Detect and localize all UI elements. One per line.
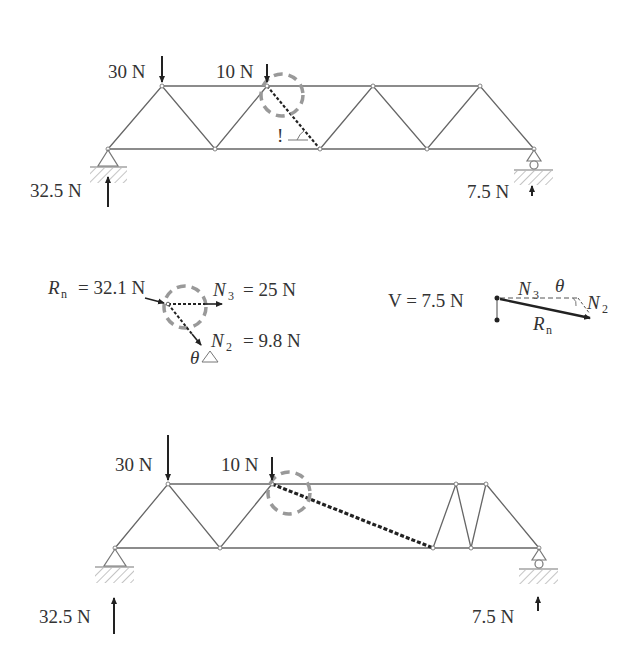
top-truss [108,86,534,149]
web-members-right [433,484,539,548]
truss-diagram-canvas: ! 30 N 10 N 32.5 N 7.5 N R n = 32.1 N N … [0,0,630,669]
load-label-30n: 30 N [108,61,146,82]
joint-highlight-circle-fbd [164,286,206,328]
n3-subscript: 3 [228,289,234,303]
bottom-truss [115,484,539,548]
n3-symbol: N [212,279,227,300]
top-truss-nodes [106,84,536,151]
reaction-label-right-bottom: 7.5 N [472,606,515,627]
web-members-right [320,86,534,149]
v-label: V = 7.5 N [388,290,464,311]
tri-n2-subscript: 2 [602,302,608,316]
rn-resultant-arrow-icon [500,299,590,318]
reaction-label-left: 32.5 N [30,180,82,201]
theta-arc-icon [573,298,576,306]
tri-n3-symbol: N [517,278,532,299]
rn-symbol: R [47,277,60,298]
pin-support-bottom-icon [95,549,134,583]
rn-subscript: n [61,287,67,301]
n3-value: = 25 N [243,279,296,300]
web-members-left [115,484,272,548]
tri-n2-symbol: N [586,292,601,313]
n2-member-dashed [168,304,192,334]
n2-subscript: 2 [226,340,232,354]
tri-theta: θ [555,275,564,296]
theta-angle-icon [202,351,218,362]
bottom-truss-nodes [113,482,541,550]
reaction-label-left-bottom: 32.5 N [39,606,91,627]
angle-mark-icon [288,131,308,140]
roller-support-bottom-icon [519,549,558,584]
joint-highlight-circle-bottom [268,472,310,514]
tri-rn-symbol: R [532,313,545,334]
tri-rn-subscript: n [546,323,552,337]
roller-support-icon [514,150,553,185]
n2-symbol: N [210,330,225,351]
load-label-10n: 10 N [216,61,254,82]
n2-value: = 9.8 N [243,330,301,351]
marker-text: ! [277,125,283,146]
relocated-member-dashed [272,484,433,548]
rn-value: = 32.1 N [78,277,145,298]
web-members-left [108,86,267,149]
load-label-30n-bottom: 30 N [115,454,153,475]
rn-arrow-icon [145,298,164,303]
theta-label: θ [190,347,199,368]
reaction-label-right: 7.5 N [467,181,510,202]
tri-n3-subscript: 3 [533,288,539,302]
load-label-10n-bottom: 10 N [221,454,259,475]
n2-arrow-icon [192,334,201,345]
